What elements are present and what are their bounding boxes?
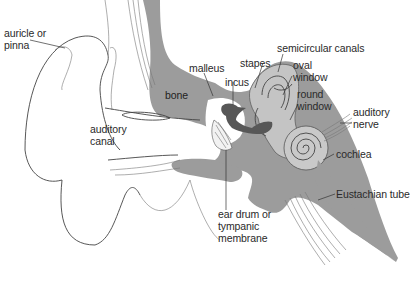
label-malleus: malleus xyxy=(189,62,224,74)
label-auditory-nerve: auditory nerve xyxy=(353,106,390,130)
label-bone: bone xyxy=(165,89,188,101)
label-auricle: auricle or pinna xyxy=(4,27,46,51)
label-stapes: stapes xyxy=(240,57,270,69)
label-semicircular-canals: semicircular canals xyxy=(277,42,364,54)
cochlea-shape xyxy=(284,126,328,170)
label-oval-window: oval window xyxy=(293,59,327,83)
label-incus: incus xyxy=(225,76,249,88)
label-eustachian-tube: Eustachian tube xyxy=(336,188,410,200)
label-auditory-canal: auditory canal xyxy=(90,123,127,147)
label-round-window: round window xyxy=(297,88,331,112)
label-cochlea: cochlea xyxy=(336,148,372,160)
label-ear-drum: ear drum or tympanic membrane xyxy=(218,208,271,244)
